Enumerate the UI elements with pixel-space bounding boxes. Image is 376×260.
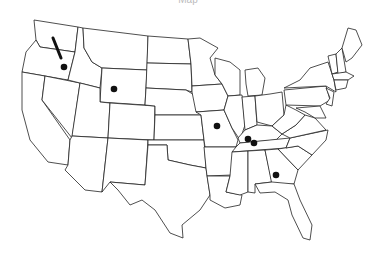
state-colorado [108, 103, 155, 140]
marker-kentucky[interactable] [251, 140, 258, 147]
state-arizona [65, 136, 108, 192]
marker-missouri[interactable] [214, 123, 221, 130]
marker-georgia[interactable] [273, 172, 280, 179]
state-outlines [22, 20, 362, 240]
marker-wyoming[interactable] [111, 86, 118, 93]
state-north-dakota [147, 36, 191, 64]
marker-oregon-idaho[interactable] [61, 64, 68, 71]
state-maine [342, 28, 362, 62]
state-south-dakota [146, 63, 192, 92]
us-map [0, 0, 376, 260]
state-connecticut [334, 80, 348, 90]
state-florida [255, 182, 312, 240]
marker-kentucky-west[interactable] [245, 136, 252, 143]
state-indiana [242, 96, 257, 130]
state-michigan [245, 68, 265, 96]
state-iowa [192, 84, 228, 112]
state-massachusetts [332, 72, 354, 80]
state-kansas [154, 115, 204, 140]
state-wyoming [100, 68, 147, 105]
state-pennsylvania [284, 86, 330, 106]
